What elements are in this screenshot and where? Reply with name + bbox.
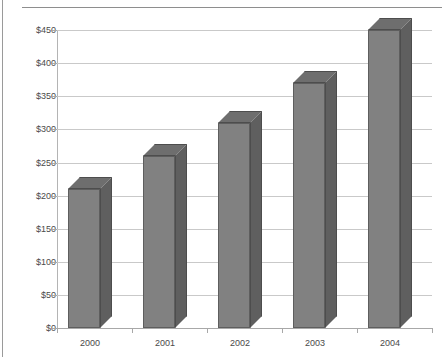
x-axis-label: 2004 [355,338,425,348]
x-axis-label: 2001 [130,338,200,348]
bar-front-face [293,83,325,328]
frame-top-border [22,7,442,8]
bar-side-face [100,177,112,328]
bar-side-face [325,71,337,328]
bar-2001 [143,144,187,328]
y-axis-label: $400 [0,58,56,68]
y-axis-label: $100 [0,257,56,267]
bar-front-face [68,189,100,328]
y-axis-label: $50 [0,290,56,300]
bar-front-face [368,30,400,328]
x-axis-line [57,328,432,329]
bar-2003 [293,71,337,328]
bar-front-face [218,123,250,328]
y-axis-label: $0 [0,323,56,333]
x-axis-tick [57,328,58,333]
y-axis-label: $200 [0,191,56,201]
x-axis-label: 2003 [280,338,350,348]
plot-area [57,30,432,328]
x-axis-tick [282,328,283,333]
bar-front-face [143,156,175,328]
bar-2000 [68,177,112,328]
y-axis-label: $250 [0,158,56,168]
x-axis-label: 2000 [55,338,125,348]
y-axis-label: $300 [0,124,56,134]
bar-2004 [368,18,412,328]
y-axis-label: $150 [0,224,56,234]
x-axis-tick [132,328,133,333]
bar-side-face [175,144,187,328]
x-axis-tick [357,328,358,333]
bar-chart: $450 $400 $350 $300 $250 $200 $150 $100 … [0,0,442,357]
x-axis-tick [207,328,208,333]
x-axis-label: 2002 [205,338,275,348]
bar-2002 [218,111,262,328]
frame-left-border [2,0,3,357]
bar-side-face [400,18,412,328]
bar-side-face [250,111,262,328]
y-axis-label: $350 [0,91,56,101]
y-axis-label: $450 [0,25,56,35]
x-axis-tick [432,328,433,333]
